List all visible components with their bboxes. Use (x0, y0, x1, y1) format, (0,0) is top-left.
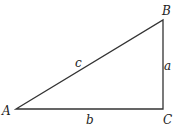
triangle-diagram: A B C a b c (0, 0, 177, 127)
vertex-label-c: C (163, 113, 172, 127)
side-label-c: c (75, 56, 82, 70)
triangle-shape (16, 20, 163, 109)
vertex-label-a: A (1, 104, 11, 118)
vertex-label-b: B (161, 4, 171, 18)
side-label-a: a (164, 59, 171, 73)
side-label-b: b (86, 113, 94, 127)
